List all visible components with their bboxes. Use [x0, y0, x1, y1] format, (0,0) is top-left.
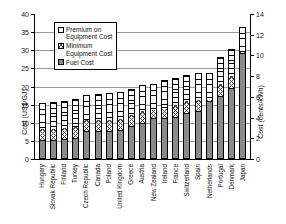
x-label-column: Switzerland	[182, 162, 193, 222]
bar-column	[181, 14, 192, 159]
bar-segment-premium	[229, 50, 234, 76]
bar-column	[226, 14, 237, 159]
x-axis-tick-label: France	[173, 164, 179, 184]
legend-item-label: Premium on Equipment Cost	[66, 26, 112, 40]
bar-segment-minimum	[40, 129, 45, 140]
stacked-bar	[72, 99, 79, 159]
bar-segment-premium	[140, 86, 145, 111]
bar-segment-premium	[107, 94, 112, 120]
bar-segment-fuel	[196, 111, 201, 158]
bar-column	[170, 14, 181, 159]
bar-segment-fuel	[229, 88, 234, 158]
x-label-column: Turkey	[70, 162, 81, 222]
y-tick-label-left: 40	[9, 11, 29, 18]
y-tick-right	[250, 138, 254, 139]
x-label-column: Czech Republic	[81, 162, 92, 222]
stacked-bar	[239, 27, 246, 159]
legend-swatch-premium-icon	[58, 27, 64, 33]
y-tick-label-left: 35	[9, 29, 29, 36]
x-axis-tick-label: Czech Republic	[83, 164, 89, 208]
bar-segment-minimum	[162, 109, 167, 117]
bar-segment-premium	[207, 74, 212, 100]
x-label-column: Japan	[238, 162, 249, 222]
bar-segment-minimum	[218, 84, 223, 96]
x-label-column: Spain	[193, 162, 204, 222]
stacked-bar	[228, 49, 235, 159]
bar-segment-fuel	[162, 118, 167, 159]
bar-segment-premium	[96, 95, 101, 120]
x-axis-tick-label: Turkey	[72, 164, 78, 183]
x-axis-tick-label: Hungary	[38, 164, 44, 188]
bar-segment-premium	[40, 104, 45, 129]
bar-segment-premium	[129, 90, 134, 114]
y-tick-label-left: 15	[9, 101, 29, 108]
bar-segment-minimum	[62, 128, 67, 139]
x-label-column: United Kingdom	[114, 162, 125, 222]
bar-segment-premium	[196, 74, 201, 100]
bar-segment-minimum	[107, 120, 112, 132]
bar-segment-fuel	[129, 126, 134, 158]
bar-segment-premium	[84, 96, 89, 120]
bar-segment-premium	[184, 76, 189, 102]
stacked-bar	[217, 57, 224, 159]
y-tick-right	[250, 35, 254, 36]
y-tick-right	[250, 76, 254, 77]
bar-segment-minimum	[96, 120, 101, 132]
x-label-column: Denmark	[226, 162, 237, 222]
bar-column	[137, 14, 148, 159]
bar-segment-minimum	[129, 115, 134, 127]
stacked-bar	[39, 103, 46, 159]
x-axis-tick-label: Austria	[139, 164, 145, 184]
bar-segment-fuel	[40, 140, 45, 158]
x-label-column: Ireland	[159, 162, 170, 222]
bar-segment-premium	[173, 79, 178, 105]
y-tick-label-left: 20	[9, 83, 29, 90]
x-label-column: Portugal	[215, 162, 226, 222]
bar-segment-minimum	[184, 101, 189, 113]
y-tick-right	[250, 159, 254, 160]
y-tick-right	[250, 14, 254, 15]
y-tick-label-right: 12	[256, 31, 276, 38]
bar-segment-fuel	[207, 101, 212, 158]
x-axis-tick-label: Poland	[106, 164, 112, 184]
bar-segment-minimum	[118, 119, 123, 131]
bar-segment-premium	[73, 100, 78, 126]
stacked-bar	[128, 89, 135, 159]
x-label-column: New Zealand	[148, 162, 159, 222]
stacked-bar	[106, 93, 113, 159]
legend-item: Fuel Cost	[58, 59, 112, 66]
y-tick-left	[31, 159, 35, 160]
bar-segment-fuel	[184, 113, 189, 158]
y-tick-label-right: 0	[256, 156, 276, 163]
x-axis-tick-label: Netherlands	[206, 164, 212, 198]
bar-segment-premium	[218, 58, 223, 84]
x-axis-tick-label: New Zealand	[150, 164, 156, 201]
x-axis-tick-label: Portugal	[218, 164, 224, 187]
stacked-bar	[195, 73, 202, 159]
bar-column	[148, 14, 159, 159]
bar-segment-minimum	[51, 129, 56, 140]
bar-segment-fuel	[96, 131, 101, 158]
bar-segment-minimum	[196, 100, 201, 111]
bar-column	[215, 14, 226, 159]
x-axis-tick-label: Denmark	[229, 164, 235, 190]
stacked-bar	[95, 94, 102, 159]
bar-segment-minimum	[151, 110, 156, 118]
stacked-bar	[206, 73, 213, 159]
x-label-column: Hungary	[36, 162, 47, 222]
bar-segment-fuel	[84, 131, 89, 158]
bar-column	[37, 14, 48, 159]
y-tick-label-right: 10	[256, 52, 276, 59]
bar-segment-premium	[62, 102, 67, 128]
x-axis-tick-label: Canada	[94, 164, 100, 186]
legend-item: Premium on Equipment Cost	[58, 26, 112, 40]
x-axis-tick-label: United Kingdom	[117, 164, 123, 209]
bar-segment-minimum	[229, 76, 234, 88]
stacked-bar	[139, 85, 146, 159]
bar-segment-minimum	[73, 127, 78, 138]
x-axis-tick-label: Finland	[61, 164, 67, 185]
stacked-bar	[61, 101, 68, 159]
legend-item-label: Minimum Equipment Cost	[66, 42, 112, 56]
stacked-bar	[183, 75, 190, 159]
bar-segment-premium	[51, 103, 56, 129]
